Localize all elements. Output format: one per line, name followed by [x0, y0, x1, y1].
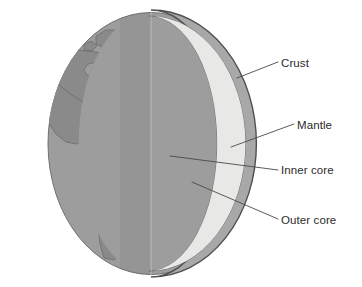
label-crust: Crust: [281, 58, 309, 70]
landmass-island-dot: [36, 156, 41, 161]
label-outer-core: Outer core: [281, 215, 336, 227]
earth-illustration: [0, 0, 362, 287]
label-mantle: Mantle: [297, 120, 332, 132]
leader-line-crust: [237, 62, 278, 78]
limb-highlight: [10, 12, 48, 275]
limb-shadow: [120, 12, 151, 275]
label-inner-core: Inner core: [281, 165, 334, 177]
earth-cutaway-diagram: Crust Mantle Inner core Outer core: [0, 0, 362, 287]
